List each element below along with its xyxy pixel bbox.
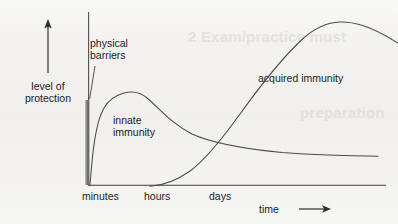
physical-barriers-label-line1: physical — [90, 37, 128, 49]
x-axis-label: time — [259, 203, 279, 215]
y-axis-label-line2: protection — [25, 92, 71, 104]
innate-immunity-label-line1: innate — [113, 114, 155, 126]
acquired-immunity-curve — [150, 22, 398, 186]
x-axis-arrow-group — [299, 205, 331, 212]
physical-barriers-label: physical barriers — [90, 37, 128, 62]
immune-response-figure: 2 Exam/practice must preparation — [0, 0, 398, 224]
x-axis-tick-hours: hours — [144, 190, 170, 202]
physical-barriers-leader-line — [90, 66, 95, 99]
innate-immunity-label-line2: immunity — [113, 126, 155, 138]
x-axis-tick-minutes: minutes — [82, 190, 119, 202]
y-axis-label-line1: level of — [25, 80, 71, 92]
physical-barriers-band-highlight — [86, 100, 88, 185]
x-axis-tick-days: days — [209, 190, 231, 202]
chart-canvas — [0, 0, 398, 224]
physical-barriers-label-line2: barriers — [90, 49, 128, 61]
acquired-immunity-label: acquired immunity — [258, 72, 343, 84]
y-axis-arrow-group — [44, 19, 51, 73]
innate-immunity-label: innate immunity — [113, 114, 155, 139]
y-axis-label: level of protection — [25, 80, 71, 105]
